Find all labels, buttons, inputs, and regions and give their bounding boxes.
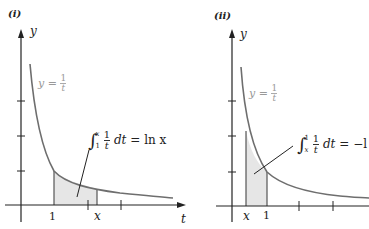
arrowhead-t xyxy=(177,202,186,208)
arrowhead-y-ii xyxy=(229,29,235,38)
curve-label-i: y = 1 t xyxy=(38,74,66,93)
arrowhead-y-i xyxy=(18,29,24,38)
diagram-canvas xyxy=(0,0,369,229)
integral-label-ii: ∫1x 1t dt = −l xyxy=(297,132,367,156)
tick-label-1-ii: 1 xyxy=(263,209,270,222)
tick-label-x-ii: x xyxy=(243,209,250,223)
integral-label-i: ∫x1 1t dt = ln x xyxy=(88,128,166,152)
panel-ii-graphics xyxy=(216,29,369,222)
curve-label-ii: y = 1 t xyxy=(249,84,277,103)
panel-label-i: (i) xyxy=(8,8,21,19)
tick-label-x-i: x xyxy=(94,209,101,223)
panel-i-graphics xyxy=(5,29,186,222)
tick-label-1-i: 1 xyxy=(49,210,56,223)
y-axis-label-ii: y xyxy=(240,27,247,41)
panel-label-ii: (ii) xyxy=(214,10,231,21)
t-axis-label: t xyxy=(181,212,186,226)
y-axis-label-i: y xyxy=(30,24,37,38)
